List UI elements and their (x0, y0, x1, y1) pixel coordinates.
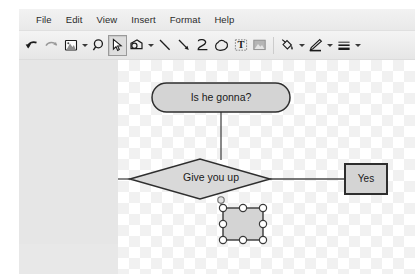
cursor-select-icon (111, 38, 124, 52)
shape-button[interactable] (127, 35, 146, 56)
shape-rounded-rect-is-he-gonna[interactable]: Is he gonna? (152, 83, 290, 112)
text-box-icon: T (234, 38, 248, 52)
undo-icon (25, 39, 40, 52)
shape-rect-selected[interactable] (223, 208, 263, 240)
line-icon (158, 38, 172, 52)
menu-format[interactable]: Format (163, 12, 208, 27)
diagram-canvas-svg: Is he gonna? Give you up Yes (118, 60, 415, 274)
line-tool-button[interactable] (155, 35, 174, 56)
freeform-cloud-icon (214, 38, 229, 52)
shape-rect-yes-label: Yes (358, 173, 374, 184)
workspace: Is he gonna? Give you up Yes (19, 60, 415, 274)
drawing-canvas[interactable]: Is he gonna? Give you up Yes (118, 60, 415, 274)
app-root: File Edit View Insert Format Help (0, 0, 415, 274)
redo-icon (44, 39, 59, 52)
menu-insert[interactable]: Insert (124, 12, 162, 27)
menu-help[interactable]: Help (207, 12, 241, 27)
chevron-down-icon (355, 44, 361, 47)
image-dropdown-caret[interactable] (80, 35, 89, 56)
menu-view[interactable]: View (90, 12, 125, 27)
handle-top-center[interactable] (239, 204, 246, 211)
handle-middle-left[interactable] (219, 220, 226, 227)
fill-color-button[interactable] (278, 35, 297, 56)
redo-button[interactable] (42, 35, 61, 56)
shape-diamond-label: Give you up (183, 171, 239, 183)
curve-tool-button[interactable] (193, 35, 212, 56)
zoom-button[interactable] (89, 35, 108, 56)
shape-icon (129, 38, 144, 52)
left-panel (19, 60, 118, 244)
fill-color-dropdown-caret[interactable] (297, 35, 306, 56)
chevron-down-icon (82, 44, 88, 47)
menu-bar: File Edit View Insert Format Help (19, 9, 415, 31)
shape-rect-selected-body (223, 208, 263, 240)
freeform-tool-button[interactable] (212, 35, 231, 56)
svg-text:T: T (237, 39, 244, 50)
text-box-button[interactable]: T (231, 35, 250, 56)
chevron-down-icon (299, 44, 305, 47)
line-weight-icon (337, 39, 351, 52)
shape-rect-yes[interactable]: Yes (345, 164, 387, 194)
image-icon (64, 38, 78, 52)
undo-button[interactable] (23, 35, 42, 56)
paint-bucket-icon (280, 38, 295, 52)
handle-bottom-left[interactable] (219, 236, 226, 243)
line-weight-dropdown-caret[interactable] (353, 35, 362, 56)
line-color-dropdown-caret[interactable] (325, 35, 334, 56)
curve-icon (196, 38, 210, 52)
image-fill-icon (253, 39, 266, 51)
select-tool-button[interactable] (108, 35, 127, 56)
chevron-down-icon (327, 44, 333, 47)
menu-file[interactable]: File (29, 12, 59, 27)
anchor-point-diamond-bottom[interactable] (218, 197, 224, 203)
toolbar-separator (273, 37, 274, 54)
toolbar: T (19, 31, 415, 60)
handle-bottom-right[interactable] (259, 236, 266, 243)
handle-top-right[interactable] (259, 204, 266, 211)
application-window: File Edit View Insert Format Help (19, 9, 415, 274)
handle-top-left[interactable] (219, 204, 226, 211)
shape-diamond-give-you-up[interactable]: Give you up (130, 159, 270, 199)
magnifier-icon (92, 38, 106, 52)
handle-bottom-center[interactable] (239, 236, 246, 243)
menu-edit[interactable]: Edit (59, 12, 90, 27)
arrow-tool-button[interactable] (174, 35, 193, 56)
pencil-icon (308, 38, 323, 52)
insert-image-button[interactable] (250, 35, 269, 56)
line-color-button[interactable] (306, 35, 325, 56)
image-button[interactable] (61, 35, 80, 56)
chevron-down-icon (148, 44, 154, 47)
shape-dropdown-caret[interactable] (146, 35, 155, 56)
handle-middle-right[interactable] (259, 220, 266, 227)
line-weight-button[interactable] (334, 35, 353, 56)
shape-rounded-rect-label: Is he gonna? (191, 91, 252, 103)
arrow-icon (177, 38, 191, 52)
